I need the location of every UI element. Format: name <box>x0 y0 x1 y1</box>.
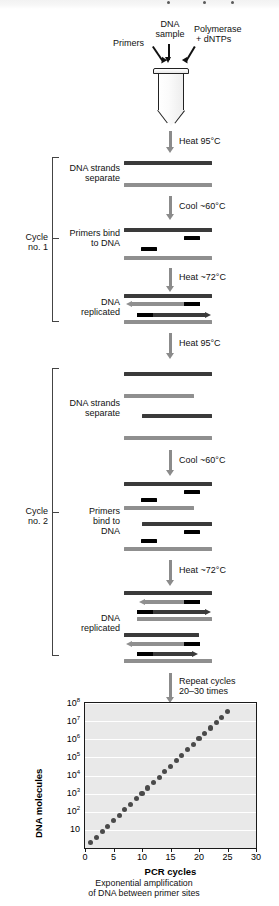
dna-strand-light <box>124 256 212 260</box>
chart-y-tick-label: 10 <box>46 825 80 834</box>
chart-data-point <box>219 715 224 720</box>
chart-gridline <box>85 794 256 795</box>
new-strand-rightward <box>137 312 211 317</box>
cycle2-stage1-label-line1: DNA strands <box>54 398 120 409</box>
flow-arrow-heat72-b <box>166 560 175 586</box>
new-strand-leftward <box>126 301 200 306</box>
cycle1-stage1-label-line1: DNA strands <box>58 163 120 174</box>
dna-strand-dark <box>124 482 212 486</box>
dna-strand-dark-short <box>142 522 212 526</box>
step-label-heat72-a: Heat ~72°C <box>179 272 226 283</box>
chart-x-tick-label: 30 <box>246 853 266 862</box>
chart-data-point <box>134 796 139 801</box>
step-label-repeat-line1: Repeat cycles <box>179 676 236 687</box>
dna-strand-dark <box>124 294 212 298</box>
chart-data-point <box>196 736 201 741</box>
chart-x-tick-label: 10 <box>132 853 152 862</box>
chart-data-point <box>202 731 207 736</box>
dna-strand-dark <box>124 228 212 232</box>
flow-arrow-heat72-a <box>166 268 175 292</box>
chart-data-point <box>111 818 116 823</box>
chart-gridline <box>85 830 256 831</box>
chart-y-axis-title: DNA molecules <box>33 769 44 838</box>
top-cropped-band <box>0 0 279 9</box>
label-dna-sample-line2: sample <box>150 29 190 40</box>
chart-data-point <box>185 747 190 752</box>
cycle2-label-line2: no. 2 <box>6 516 48 527</box>
chart-data-point <box>94 835 99 840</box>
dna-strand-light <box>124 436 212 440</box>
pcr-amplification-plot <box>84 702 257 849</box>
cropped-title-ghost <box>100 11 190 16</box>
chart-x-axis-title: PCR cycles <box>84 866 257 877</box>
flow-arrow-repeat-cycles <box>166 673 175 703</box>
chart-y-tick-label: 108 <box>46 699 80 708</box>
chart-gridline <box>85 812 256 813</box>
flow-arrow-heat95-a <box>166 131 175 153</box>
cycle2-stage2-label-line2: bind to <box>58 516 120 527</box>
label-polymerase-line2: + dNTPs <box>196 34 231 45</box>
cycle1-stage3-label-line2: replicated <box>58 307 120 318</box>
primer-block <box>141 247 157 251</box>
cycle2-stage1-label-line2: separate <box>54 408 120 419</box>
chart-gridline <box>85 703 256 704</box>
new-strand-rightward <box>137 609 211 614</box>
cycle2-stage2-label-line3: DNA <box>58 526 120 537</box>
dna-strand-dark <box>124 372 212 376</box>
chart-data-point <box>88 840 93 845</box>
step-label-repeat-line2: 20–30 times <box>179 686 228 697</box>
primer-block <box>184 530 200 534</box>
step-label-cool60-a: Cool ~60°C <box>179 201 225 212</box>
cycle2-stage3-label-line1: DNA <box>58 613 120 624</box>
chart-data-point <box>128 802 133 807</box>
chart-y-tick-label: 102 <box>46 807 80 816</box>
step-label-heat72-b: Heat ~72°C <box>179 565 226 576</box>
chart-data-point <box>168 764 173 769</box>
chart-y-tick-label: 104 <box>46 771 80 780</box>
chart-y-tick-label: 103 <box>46 789 80 798</box>
cycle1-stage2-label-line2: to DNA <box>54 238 120 249</box>
chart-data-point <box>208 725 213 730</box>
cycle1-stage2-label-line1: Primers bind <box>54 228 120 239</box>
label-primers: Primers <box>113 38 144 49</box>
chart-data-point <box>139 791 144 796</box>
primer-block <box>184 490 200 494</box>
chart-data-point <box>174 758 179 763</box>
chart-gridline <box>85 776 256 777</box>
chart-y-tick-label: 106 <box>46 735 80 744</box>
label-dna-sample-line1: DNA <box>152 19 188 30</box>
chart-data-point <box>151 780 156 785</box>
crop-dot-1 <box>167 1 170 4</box>
chart-caption-line1: Exponential amplification <box>24 878 264 888</box>
chart-y-tick-label: 105 <box>46 753 80 762</box>
cycle2-stage2-label-line1: Primers <box>58 506 120 517</box>
cycle1-label-line2: no. 1 <box>6 242 48 253</box>
chart-x-tick-label: 15 <box>161 853 181 862</box>
chart-data-point <box>105 824 110 829</box>
cycle2-stage3-label-line2: replicated <box>58 623 120 634</box>
dna-strand-light-short <box>124 506 194 510</box>
chart-data-point <box>191 742 196 747</box>
dna-strand-light-short <box>137 617 212 621</box>
dna-strand-dark <box>124 591 212 595</box>
crop-dot-3 <box>231 1 234 4</box>
flow-arrow-cool60-b <box>166 450 175 476</box>
chart-data-point <box>145 785 150 790</box>
cycle1-stage1-label-line2: separate <box>58 173 120 184</box>
new-strand-rightward <box>137 651 198 656</box>
dna-strand-light <box>124 320 212 324</box>
flow-arrow-heat95-b <box>166 333 175 359</box>
chart-data-point <box>225 709 230 714</box>
primer-block <box>141 539 157 543</box>
dna-strand-light <box>124 547 212 551</box>
chart-x-tick-label: 20 <box>189 853 209 862</box>
chart-x-tick-label: 0 <box>75 853 95 862</box>
dna-strand-dark-short <box>142 414 212 418</box>
chart-gridline <box>85 721 256 722</box>
chart-data-point <box>100 829 105 834</box>
chart-x-tick-label: 25 <box>218 853 238 862</box>
new-strand-leftward <box>139 599 200 604</box>
chart-caption-line2: of DNA between primer sites <box>24 888 264 898</box>
chart-x-tick-label: 5 <box>104 853 124 862</box>
crop-dot-2 <box>203 1 206 4</box>
